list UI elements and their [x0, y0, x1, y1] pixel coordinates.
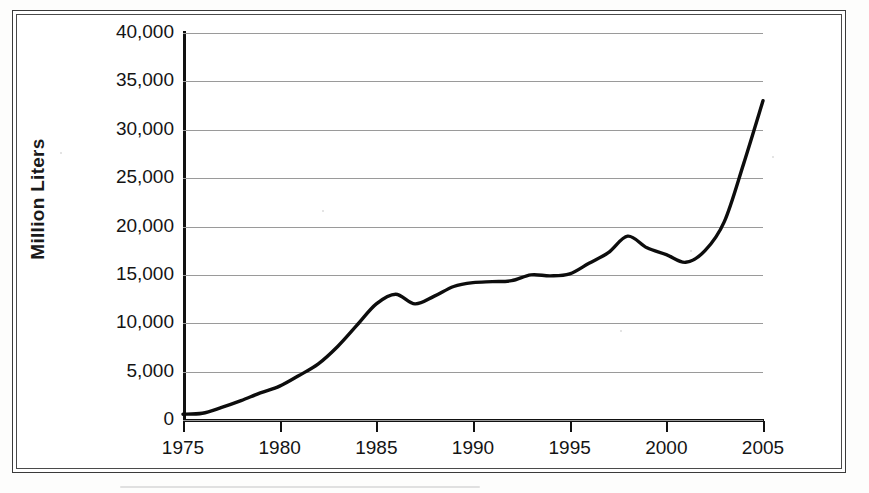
scan-speck [772, 156, 774, 158]
x-axis-tick-label: 1990 [428, 437, 518, 459]
line-series-path [183, 101, 763, 414]
x-axis-tick-label: 1995 [525, 437, 615, 459]
x-axis-tick-label: 1985 [331, 437, 421, 459]
y-axis-tick-label: 30,000 [88, 118, 174, 140]
y-axis-tick-label: 20,000 [88, 215, 174, 237]
y-axis-title: Million Liters [27, 99, 49, 299]
x-axis-tick-mark [763, 421, 765, 432]
x-axis-tick-mark [473, 421, 475, 432]
y-axis-tick-label: 40,000 [88, 21, 174, 43]
x-axis-tick-mark [376, 421, 378, 432]
x-axis-tick-mark [666, 421, 668, 432]
scanned-page: Million Liters 05,00010,00015,00020,0002… [0, 0, 869, 493]
scan-speck [620, 330, 622, 332]
plot-area [183, 33, 763, 420]
x-axis-tick-label: 2000 [621, 437, 711, 459]
line-series [183, 33, 763, 420]
y-axis-tick-label: 10,000 [88, 311, 174, 333]
x-axis-tick-mark [280, 421, 282, 432]
scan-speck [690, 250, 692, 252]
scan-speck [322, 210, 324, 212]
x-axis-tick-label: 2005 [718, 437, 808, 459]
x-axis-tick-label: 1980 [235, 437, 325, 459]
y-axis-tick-label: 15,000 [88, 263, 174, 285]
y-axis-tick-label: 0 [88, 408, 174, 430]
y-axis-tick-labels: 05,00010,00015,00020,00025,00030,00035,0… [88, 0, 174, 493]
y-axis-tick-label: 35,000 [88, 69, 174, 91]
x-axis-tick-label: 1975 [138, 437, 228, 459]
scan-speck [60, 152, 62, 154]
scan-artifact-smudge [120, 486, 480, 488]
y-axis-tick-label: 25,000 [88, 166, 174, 188]
x-axis-tick-mark [183, 421, 185, 432]
y-axis-tick-label: 5,000 [88, 360, 174, 382]
x-axis-tick-mark [570, 421, 572, 432]
